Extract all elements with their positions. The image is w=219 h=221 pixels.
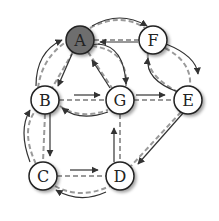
node-d[interactable]: D [106,162,134,190]
edge-f-e [165,48,190,86]
arrow-g-a [92,60,110,88]
edge-e-d [131,112,181,166]
node-b[interactable]: B [31,86,59,114]
node-label: F [147,31,158,50]
node-c[interactable]: C [29,162,57,190]
node-e[interactable]: E [174,86,202,114]
node-label: D [114,167,127,186]
arrow-f-e [166,44,198,74]
arrow-e-f [148,58,178,92]
arrow-e-d [138,112,184,164]
node-g[interactable]: G [106,86,134,114]
edge-a-b [52,52,73,88]
node-label: B [39,91,51,110]
edge-b-c [43,114,45,162]
edge-b-g-lower [60,106,108,114]
node-label: E [182,91,194,110]
edge-f-e-inner [148,53,178,92]
node-a[interactable]: A [66,26,94,54]
edge-a-g [88,52,112,88]
node-label: A [73,31,86,50]
edge-b-a-outer [38,42,66,88]
arrow-a-b [58,54,72,86]
node-label: G [114,91,127,110]
graph-diagram: A F B G E C D [0,0,219,221]
edge-c-d-lower [55,186,110,193]
arrow-c-b [24,110,30,162]
node-f[interactable]: F [139,26,167,54]
edge-c-b-outer [28,110,36,164]
node-label: C [37,167,49,186]
